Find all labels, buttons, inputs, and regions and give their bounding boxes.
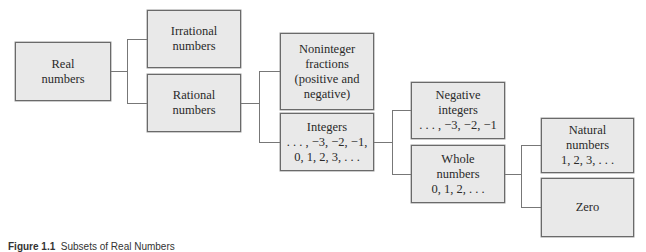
node-label: Rational numbers [172, 88, 215, 118]
connector [392, 110, 393, 174]
node-real-numbers: Real numbers [15, 42, 111, 101]
connector [127, 103, 147, 104]
connector [521, 145, 541, 146]
connector [521, 145, 522, 207]
node-label: Noninteger fractions (positive and negat… [295, 42, 360, 102]
node-noninteger-fractions: Noninteger fractions (positive and negat… [280, 33, 374, 110]
connector [127, 39, 128, 103]
node-label: Natural numbers 1, 2, 3, . . . [561, 123, 614, 168]
connector [392, 174, 411, 175]
figure-number: Figure 1.1 [8, 241, 55, 252]
node-label: Real numbers [41, 57, 84, 87]
node-natural-numbers: Natural numbers 1, 2, 3, . . . [541, 118, 634, 173]
node-label: Irrational numbers [171, 24, 218, 54]
connector [111, 71, 127, 72]
figure-title: Subsets of Real Numbers [61, 241, 175, 252]
connector [241, 103, 259, 104]
node-integers: Integers . . . , −3, −2, −1, 0, 1, 2, 3,… [280, 113, 374, 171]
node-rational-numbers: Rational numbers [147, 74, 241, 132]
node-label: Whole numbers 0, 1, 2, . . . [431, 152, 484, 197]
connector [521, 207, 541, 208]
node-negative-integers: Negative integers . . . , −3, −2, −1 [411, 82, 505, 139]
figure-caption: Figure 1.1 Subsets of Real Numbers [8, 241, 175, 252]
connector [259, 71, 280, 72]
node-label: Integers . . . , −3, −2, −1, 0, 1, 2, 3,… [287, 120, 368, 165]
connector [259, 142, 280, 143]
node-whole-numbers: Whole numbers 0, 1, 2, . . . [411, 145, 505, 203]
connector [374, 142, 392, 143]
node-zero: Zero [541, 178, 634, 237]
connector [505, 174, 521, 175]
connector [259, 71, 260, 142]
connector [392, 110, 411, 111]
connector [127, 39, 147, 40]
node-label: Negative integers . . . , −3, −2, −1 [419, 88, 496, 133]
node-label: Zero [576, 200, 600, 215]
node-irrational-numbers: Irrational numbers [147, 10, 241, 68]
